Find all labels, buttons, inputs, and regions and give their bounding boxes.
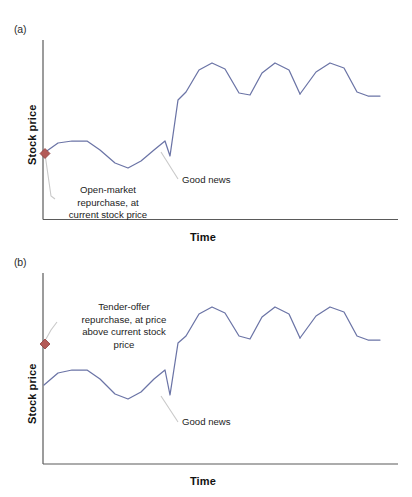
panel-b-plot: [0, 248, 412, 497]
panel-a-good-news-annotation: Good news: [182, 174, 272, 187]
panel-a-price-line: [44, 63, 300, 168]
panel-b-good-news-leader-line: [161, 396, 178, 422]
panel-b-repurchase-annotation: Tender-offer repurchase, at price above …: [58, 301, 190, 351]
panel-b-good-news-annotation: Good news: [182, 416, 272, 429]
panel-a: (a) Stock price Time Open-market repurch…: [0, 0, 412, 248]
panel-b-repurchase-leader-line: [46, 322, 57, 339]
panel-b: (b) Stock price Time Tender-offer repurc…: [0, 248, 412, 497]
panel-a-repurchase-annotation: Open-market repurchase, at current stock…: [42, 184, 174, 222]
figure-stock-price-repurchase: (a) Stock price Time Open-market repurch…: [0, 0, 412, 497]
panel-b-repurchase-marker: [40, 339, 50, 349]
panel-b-price-line-tail: [300, 307, 380, 340]
panel-a-price-line-tail: [300, 63, 380, 96]
